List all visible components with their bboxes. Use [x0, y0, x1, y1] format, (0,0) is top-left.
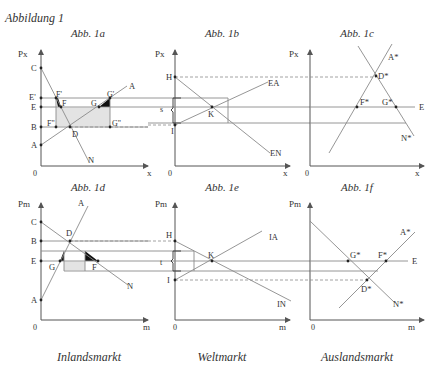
curve-label-supply: A — [78, 198, 85, 208]
point-label-D-star: D* — [378, 71, 388, 81]
point-label-F-prime: F' — [56, 90, 62, 99]
footer-label-domestic: Inlandsmarkt — [56, 350, 122, 364]
panel-title: Abb. 1b — [204, 27, 240, 39]
panel-title: Abb. 1c — [339, 27, 374, 39]
line-label-E: E — [419, 102, 424, 112]
y-axis-label: Pm — [18, 199, 30, 209]
curve-label-A-star: A* — [400, 227, 410, 237]
x-axis-label: m — [143, 322, 150, 332]
deadweight-triangle-right — [85, 251, 98, 261]
point-label-C: C — [31, 217, 37, 227]
point-label-F-dprime: F" — [47, 119, 55, 128]
supply-curve — [41, 206, 88, 300]
trade-equilibrium-figure: Abbildung 1 Abb. 1a Px x 0 — [0, 0, 443, 378]
origin-label: 0 — [305, 169, 309, 178]
panel-1f: Abb. 1f Pm m 0 G* F* D* E A* N* — [289, 181, 424, 332]
origin-label: 0 — [173, 323, 177, 332]
curve-label-IN: IN — [277, 299, 286, 309]
panel-1d: Abb. 1d Pm m 0 C B E A D G F A N — [18, 181, 150, 332]
point-label-G-star: G* — [350, 250, 360, 260]
point-label-A: A — [31, 295, 38, 305]
panel-1b: Abb. 1b Px x 0 s H I K EA EN — [148, 27, 310, 178]
point-label-B: B — [31, 122, 37, 132]
y-axis-label: Pm — [289, 199, 301, 209]
label-t: t — [160, 258, 163, 267]
supply-curve — [339, 232, 415, 308]
panel-title: Abb. 1d — [70, 181, 106, 193]
line-label-E: E — [412, 256, 417, 266]
curve-label-N-star: N* — [393, 299, 403, 309]
point-label-I: I — [171, 126, 174, 136]
origin-label: 0 — [168, 169, 172, 178]
curve-label-IA: IA — [269, 232, 279, 242]
x-axis-label: m — [408, 322, 415, 332]
panel-1a: Abb. 1a Px x 0 C E — [18, 27, 152, 178]
origin-label: 0 — [33, 169, 37, 178]
point-label-F-star: F* — [360, 97, 369, 107]
x-axis-label: x — [415, 168, 420, 178]
import-supply-curve — [175, 231, 262, 280]
deadweight-triangle-right — [99, 98, 110, 107]
figure-title: Abbildung 1 — [4, 11, 64, 25]
point-label-G: G — [91, 99, 97, 108]
point-label-D: D — [66, 228, 72, 238]
curve-label-supply: A — [129, 81, 136, 91]
panel-1e: Abb. 1e Pm m 0 t H I K IA IN — [148, 181, 310, 332]
point-label-F-star: F* — [378, 250, 387, 260]
x-axis-label: x — [283, 168, 288, 178]
x-axis-label: x — [147, 168, 152, 178]
point-label-D-star: D* — [361, 284, 371, 294]
point-label-I: I — [167, 275, 170, 285]
curve-label-demand: N — [127, 281, 133, 291]
point-label-F: F — [62, 99, 67, 108]
curve-label-demand: N — [88, 155, 94, 165]
point-label-G-dprime: G" — [112, 119, 121, 128]
curve-label-EA: EA — [268, 78, 280, 88]
panel-title: Abb. 1f — [340, 181, 375, 193]
point-label-D: D — [72, 129, 78, 139]
origin-label: 0 — [33, 323, 37, 332]
point-label-G-star: G* — [382, 97, 392, 107]
y-axis-label: Px — [155, 49, 165, 59]
footer-label-foreign: Auslandsmarkt — [320, 350, 394, 364]
y-axis-label: Px — [18, 49, 28, 59]
y-axis-label: Px — [289, 49, 299, 59]
curve-label-A-star: A* — [388, 52, 398, 62]
y-axis-label: Pm — [155, 199, 167, 209]
export-demand-curve — [175, 77, 270, 153]
panel-1c: Abb. 1c Px x 0 D* F* G* E A* N* — [289, 27, 424, 178]
point-label-K: K — [208, 109, 215, 119]
point-label-C: C — [31, 63, 37, 73]
curve-label-N-star: N* — [401, 133, 411, 143]
panel-title: Abb. 1e — [204, 181, 239, 193]
footer-label-world: Weltmarkt — [198, 350, 248, 364]
panel-title: Abb. 1a — [70, 27, 106, 39]
origin-label: 0 — [311, 323, 315, 332]
point-label-G: G — [49, 262, 55, 272]
demand-curve — [41, 222, 128, 285]
point-label-E: E — [31, 256, 36, 266]
point-label-E: E — [31, 102, 36, 112]
point-label-A: A — [31, 140, 38, 150]
point-label-G-prime: G' — [107, 90, 115, 99]
demand-curve — [358, 46, 414, 136]
point-label-E-prime: E' — [29, 92, 36, 102]
tariff-bracket — [171, 98, 181, 123]
point-label-K: K — [208, 250, 215, 260]
point-label-H: H — [166, 72, 172, 82]
demand-curve — [310, 221, 395, 303]
curve-label-EN: EN — [270, 148, 281, 158]
point-label-H: H — [166, 230, 172, 240]
point-label-F: F — [92, 262, 97, 272]
x-axis-label: m — [279, 322, 286, 332]
point-label-B: B — [31, 236, 37, 246]
label-s: s — [160, 105, 163, 114]
